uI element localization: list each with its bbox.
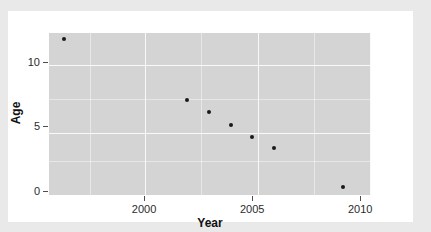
x-axis-label: Year xyxy=(49,216,371,230)
data-point xyxy=(229,123,233,127)
x-tick-label: 2000 xyxy=(124,204,164,215)
data-point xyxy=(250,135,254,139)
gridline-y-10 xyxy=(49,65,371,66)
gridline-y-0 xyxy=(49,195,371,196)
plot-panel xyxy=(49,33,371,195)
gridline-x-2005 xyxy=(258,33,259,195)
data-point xyxy=(185,98,189,102)
y-tick-mark xyxy=(43,191,48,192)
gridline-y-5 xyxy=(49,133,371,134)
x-tick-label: 2005 xyxy=(232,204,272,215)
data-point xyxy=(207,110,211,114)
gridline-y-2.5 xyxy=(49,161,371,162)
data-point xyxy=(272,146,276,150)
y-tick-mark xyxy=(43,62,48,63)
gridline-x-2002.5 xyxy=(201,33,202,195)
data-point xyxy=(341,185,345,189)
gridline-x-1997.5 xyxy=(90,33,91,195)
figure-card: 0510 200020052010 Year Age xyxy=(8,11,413,222)
gridline-x-2010 xyxy=(370,33,371,195)
data-point xyxy=(62,37,66,41)
x-tick-label: 2010 xyxy=(340,204,380,215)
y-tick-mark xyxy=(43,126,48,127)
x-tick-mark xyxy=(360,196,361,201)
x-tick-mark xyxy=(252,196,253,201)
y-tick-label: 0 xyxy=(15,186,40,197)
scatter-plot-screenshot: 0510 200020052010 Year Age xyxy=(0,0,431,232)
gridline-x-2000 xyxy=(145,33,146,195)
gridline-x-2007.5 xyxy=(314,33,315,195)
y-axis-label: Age xyxy=(9,93,23,133)
y-tick-label: 10 xyxy=(15,57,40,68)
gridline-y-7.5 xyxy=(49,99,371,100)
x-tick-mark xyxy=(144,196,145,201)
